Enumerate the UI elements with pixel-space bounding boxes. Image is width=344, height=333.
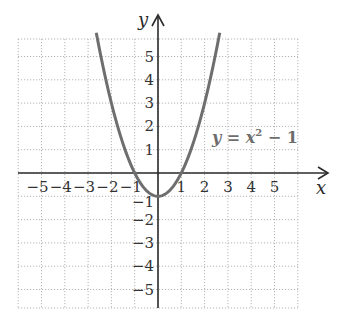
y-tick-label: −4	[132, 257, 154, 275]
parabola-chart: x y −5−4−3−2−112345−5−4−3−2−112345 y = x…	[0, 0, 344, 333]
equation-equals: =	[221, 128, 246, 147]
x-tick-label: −2	[96, 178, 118, 196]
y-tick-label: 4	[144, 71, 154, 89]
y-tick-label: −5	[132, 281, 154, 299]
equation-label: y = x2 − 1	[211, 127, 298, 147]
y-axis-label: y	[137, 9, 149, 30]
y-tick-label: 1	[144, 141, 154, 159]
y-tick-label: 3	[144, 94, 154, 112]
y-tick-label: −3	[132, 234, 154, 252]
x-tick-label: 5	[270, 178, 280, 196]
equation-exponent: 2	[255, 127, 262, 138]
x-tick-label: −5	[26, 178, 48, 196]
x-tick-label: 2	[200, 178, 210, 196]
x-axis-label: x	[316, 177, 326, 198]
x-tick-label: −4	[50, 178, 72, 196]
equation-x: x	[245, 128, 256, 147]
x-tick-label: 3	[223, 178, 233, 196]
x-tick-label: 4	[246, 178, 256, 196]
y-tick-label: −2	[132, 211, 154, 229]
y-tick-label: 5	[144, 48, 154, 66]
y-tick-label: 2	[144, 117, 154, 135]
y-tick-label: −1	[132, 193, 154, 211]
x-tick-label: −3	[73, 178, 95, 196]
equation-rest: − 1	[262, 128, 298, 147]
axes: x y	[18, 9, 328, 308]
